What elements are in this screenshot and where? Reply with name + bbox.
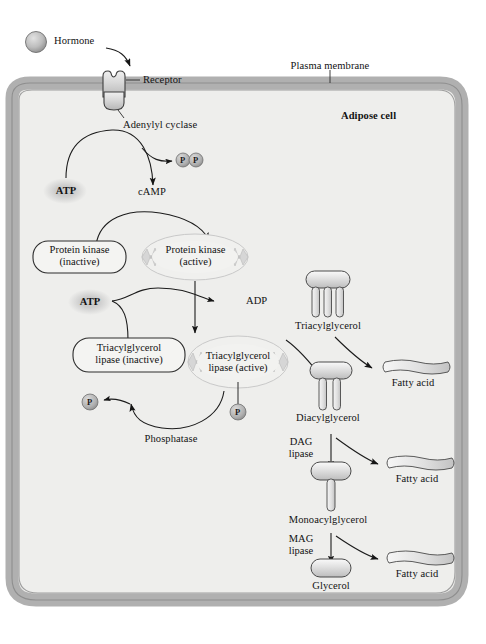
dag-lipase-line2: lipase — [289, 448, 314, 459]
plasma-membrane-label: Plasma membrane — [291, 60, 370, 72]
tag-lipase-active-label: Triacylglycerol lipase (active) — [186, 350, 290, 374]
adenylyl-cyclase-shape — [104, 92, 124, 110]
dag-lipase-line1: DAG — [290, 436, 313, 447]
fatty-acid-label-1: Fatty acid — [392, 377, 435, 389]
fatty-acid-label-2: Fatty acid — [396, 473, 439, 485]
pyrophosphate-label-1: P — [180, 155, 185, 167]
mag-lipase-line1: MAG — [289, 533, 314, 544]
diacylglycerol-label: Diacylglycerol — [296, 412, 360, 424]
pk-active-line2: (active) — [179, 256, 211, 267]
pk-inactive-line2: (inactive) — [59, 256, 99, 267]
hormone-binding-arrow — [106, 48, 130, 66]
dag-lipase-label: DAG lipase — [278, 436, 324, 460]
pathway-svg — [0, 0, 486, 644]
camp-label: cAMP — [138, 186, 166, 198]
tag-lipase-inactive-label: Triacylglycerol lipase (inactive) — [73, 342, 185, 366]
diagram-canvas: Hormone Receptor Adenylyl cyclase Plasma… — [0, 0, 486, 644]
adenylyl-cyclase-label: Adenylyl cyclase — [123, 119, 197, 131]
tag-inactive-line1: Triacylglycerol — [97, 342, 161, 353]
pk-inactive-line1: Protein kinase — [50, 244, 110, 255]
glycerol-label: Glycerol — [312, 580, 350, 592]
phosphatase-label: Phosphatase — [144, 433, 197, 445]
triacylglycerol-label: Triacylglycerol — [295, 320, 361, 332]
adipose-cell-label: Adipose cell — [341, 110, 396, 122]
protein-kinase-inactive-label: Protein kinase (inactive) — [33, 244, 126, 268]
triacylglycerol-molecule — [306, 271, 350, 317]
atp-label-2: ATP — [80, 296, 101, 308]
atp-label-1: ATP — [56, 185, 77, 197]
tag-inactive-line2: lipase (inactive) — [95, 354, 162, 365]
hormone-label: Hormone — [54, 35, 94, 47]
fatty-acid-label-3: Fatty acid — [396, 568, 439, 580]
tag-active-line2: lipase (active) — [208, 362, 267, 373]
protein-kinase-active-label: Protein kinase (active) — [149, 244, 242, 268]
pyrophosphate-label-2: P — [193, 155, 198, 167]
monoacylglycerol-label: Monoacylglycerol — [289, 514, 368, 526]
tag-active-line1: Triacylglycerol — [206, 350, 270, 361]
receptor-label: Receptor — [143, 74, 182, 86]
phosphate-label-released: P — [87, 397, 92, 409]
glycerol-molecule — [311, 559, 351, 577]
mag-lipase-label: MAG lipase — [278, 533, 324, 557]
hormone-sphere — [26, 32, 47, 53]
phosphate-label-attached: P — [235, 407, 240, 419]
adp-label: ADP — [246, 295, 267, 307]
mag-lipase-line2: lipase — [289, 545, 314, 556]
pk-active-line1: Protein kinase — [166, 244, 226, 255]
